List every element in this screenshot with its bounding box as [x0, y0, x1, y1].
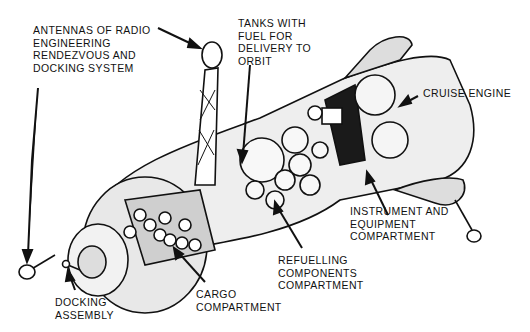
docking-hatch	[78, 246, 106, 278]
label-instrument-compartment: INSTRUMENT AND EQUIPMENT COMPARTMENT	[350, 205, 449, 243]
label-fuel-tanks: TANKS WITH FUEL FOR DELIVERY TO ORBIT	[238, 17, 311, 67]
docking-probe-tip	[63, 261, 70, 268]
label-antennas: ANTENNAS OF RADIO ENGINEERING RENDEZVOUS…	[33, 24, 151, 74]
antenna-dish-top	[202, 42, 222, 68]
label-refuelling-compartment: REFUELLING COMPONENTS COMPARTMENT	[278, 254, 364, 292]
label-cruise-engine: CRUISE ENGINE	[423, 87, 511, 100]
antenna-boom-right	[455, 200, 472, 230]
antenna-mast	[195, 68, 218, 185]
spacecraft-body	[19, 37, 481, 313]
small-sphere	[308, 106, 322, 120]
antenna-dish-left	[19, 265, 35, 279]
antenna-dish-right	[467, 230, 481, 242]
label-cargo-compartment: CARGO COMPARTMENT	[196, 288, 282, 313]
equipment-box	[322, 108, 342, 124]
label-docking-assembly: DOCKING ASSEMBLY	[55, 296, 114, 321]
